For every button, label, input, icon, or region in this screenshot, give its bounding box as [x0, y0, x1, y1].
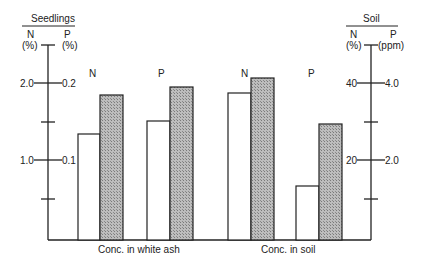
- right-tick-p-2: 2.0: [385, 155, 399, 166]
- left-tick-p-02: 0.2: [62, 78, 76, 89]
- left-axis-p-label: P: [64, 29, 71, 40]
- left-axis-n-unit: (%): [22, 40, 38, 51]
- right-tick-n-40: 40: [346, 78, 357, 89]
- right-axis: [346, 26, 398, 240]
- right-axis-n-label: N: [350, 29, 357, 40]
- right-axis-title: Soil: [363, 13, 380, 24]
- bar-soil-p-open: [296, 186, 319, 240]
- right-axis-n-unit: (%): [346, 40, 362, 51]
- left-tick-n-2: 2.0: [20, 78, 34, 89]
- right-axis-p-unit: (ppm): [378, 40, 404, 51]
- x-label-soil: Conc. in soil: [261, 244, 315, 255]
- left-axis-title: Seedlings: [31, 13, 75, 24]
- right-tick-n-20: 20: [346, 155, 357, 166]
- right-axis-p-label: P: [390, 29, 397, 40]
- group-whiteash-n-label: N: [89, 68, 96, 79]
- left-axis-p-unit: (%): [62, 40, 78, 51]
- bar-soil-p-hatched: [319, 124, 342, 240]
- bars: [78, 78, 342, 240]
- bar-soil-n-hatched: [251, 78, 274, 240]
- bar-whiteash-p-open: [147, 121, 170, 240]
- x-label-white-ash: Conc. in white ash: [98, 244, 180, 255]
- group-soil-p-label: P: [308, 68, 315, 79]
- group-soil-n-label: N: [241, 68, 248, 79]
- bar-soil-n-open: [228, 93, 251, 240]
- bar-whiteash-p-hatched: [170, 87, 193, 240]
- left-axis-n-label: N: [27, 29, 34, 40]
- left-tick-n-1: 1.0: [20, 155, 34, 166]
- right-tick-p-4: 4.0: [385, 78, 399, 89]
- left-axis: [22, 26, 75, 240]
- left-tick-p-01: 0.1: [62, 155, 76, 166]
- bar-whiteash-n-open: [78, 134, 100, 240]
- group-whiteash-p-label: P: [158, 68, 165, 79]
- bar-whiteash-n-hatched: [100, 95, 123, 240]
